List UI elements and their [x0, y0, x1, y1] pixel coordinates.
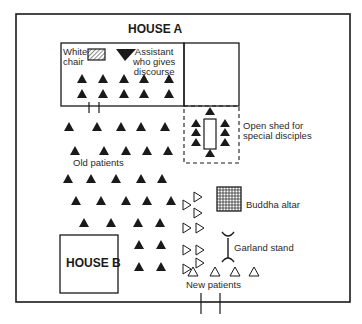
white-chair-label: White chair: [63, 47, 87, 67]
ashram-floor-plan: HOUSE A White chair Assistant who gives …: [0, 0, 362, 324]
buddha-altar-icon: [217, 187, 241, 211]
garland-stand-label: Garland stand: [234, 243, 294, 253]
white-chair-icon: [88, 49, 105, 60]
open-shed: [184, 106, 239, 163]
open-shed-label: Open shed for special disciples: [243, 121, 312, 141]
house-b-label: HOUSE B: [66, 258, 121, 268]
assistant-label: Assistant who gives discourse: [133, 47, 175, 77]
new-patients-label: New patients: [186, 280, 241, 290]
house-a-label: HOUSE A: [128, 24, 182, 34]
old-patients-house-a: [77, 74, 174, 98]
old-patients-label: Old patients: [73, 158, 124, 168]
floor-plan-drawing: [0, 0, 362, 324]
old-patients-yard: [63, 122, 176, 271]
buddha-altar-label: Buddha altar: [246, 200, 300, 210]
gate: [201, 293, 220, 314]
garland-stand-icon: [222, 232, 234, 262]
